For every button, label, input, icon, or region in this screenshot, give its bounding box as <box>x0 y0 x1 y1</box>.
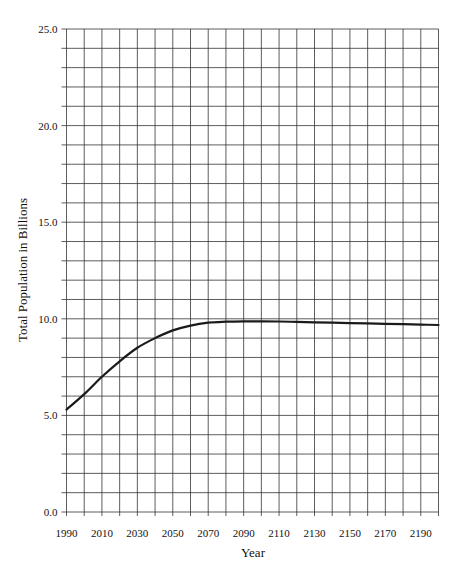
y-axis-ticks: 0.05.010.015.020.025.0 <box>38 23 58 518</box>
x-tick-label: 2030 <box>126 527 149 539</box>
x-tick-label: 1990 <box>56 527 79 539</box>
y-tick-label: 0.0 <box>44 506 58 518</box>
y-tick-label: 20.0 <box>38 120 58 132</box>
plot-grid <box>62 29 439 516</box>
x-tick-label: 2110 <box>268 527 290 539</box>
x-tick-label: 2010 <box>91 527 114 539</box>
x-tick-label: 2170 <box>374 527 397 539</box>
x-tick-label: 2050 <box>162 527 185 539</box>
x-tick-label: 2070 <box>197 527 220 539</box>
x-axis-title: Year <box>241 545 266 560</box>
x-tick-label: 2090 <box>233 527 256 539</box>
x-axis-ticks: 1990201020302050207020902110213021502170… <box>56 527 433 539</box>
y-tick-label: 10.0 <box>38 313 58 325</box>
y-tick-label: 5.0 <box>44 409 58 421</box>
y-tick-label: 25.0 <box>38 23 58 35</box>
x-tick-label: 2130 <box>304 527 327 539</box>
population-line-chart: 0.05.010.015.020.025.0 19902010203020502… <box>0 0 455 574</box>
y-axis-title: Total Population in Billions <box>15 198 30 342</box>
x-tick-label: 2190 <box>410 527 433 539</box>
y-tick-label: 15.0 <box>38 216 58 228</box>
x-tick-label: 2150 <box>339 527 362 539</box>
